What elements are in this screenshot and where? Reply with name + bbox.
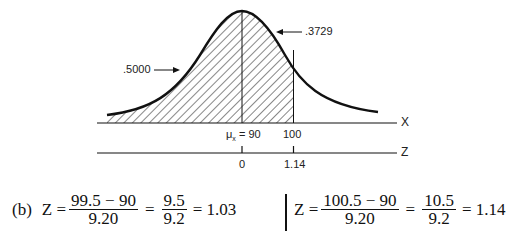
part-label: (b) (12, 200, 32, 220)
arrow-5000-head (173, 67, 180, 73)
z-var-left: Z = (42, 200, 66, 220)
z-tick-label-0: 0 (239, 158, 245, 170)
z-var-right: Z = (294, 200, 318, 220)
equation-right: Z = 100.5 − 90 9.20 = 10.5 9.2 = 1.14 (294, 192, 506, 227)
denominator: 9.2 (162, 210, 187, 227)
denominator: 9.2 (426, 210, 451, 227)
equals: = (145, 200, 155, 220)
fraction-left-1: 99.5 − 90 9.20 (69, 192, 138, 227)
result-left: = 1.03 (193, 200, 237, 220)
numerator: 9.5 (162, 192, 187, 210)
denominator: 9.20 (87, 210, 121, 227)
mean-value: = 90 (239, 128, 261, 140)
fraction-right-2: 10.5 9.2 (422, 192, 456, 227)
fraction-left-2: 9.5 9.2 (162, 192, 187, 227)
z-axis-label: Z (401, 145, 408, 159)
x-value-100: 100 (283, 128, 301, 140)
x-axis-label: X (401, 115, 409, 129)
area-label-5000: .5000 (123, 63, 151, 75)
denominator: 9.20 (343, 210, 377, 227)
z-tick-label-1-14: 1.14 (284, 158, 305, 170)
numerator: 99.5 − 90 (69, 192, 138, 210)
result-right: = 1.14 (462, 200, 506, 220)
numerator: 100.5 − 90 (321, 192, 398, 210)
equation-separator (285, 194, 287, 231)
numerator: 10.5 (422, 192, 456, 210)
arrow-3729-head (276, 29, 283, 35)
fraction-right-1: 100.5 − 90 9.20 (321, 192, 398, 227)
mean-label: μx = 90 (226, 128, 261, 142)
mu-subscript: x (232, 135, 236, 142)
area-label-3729: .3729 (305, 25, 333, 37)
equation-left: (b) Z = 99.5 − 90 9.20 = 9.5 9.2 = 1.03 (12, 192, 236, 227)
equals: = (406, 200, 416, 220)
